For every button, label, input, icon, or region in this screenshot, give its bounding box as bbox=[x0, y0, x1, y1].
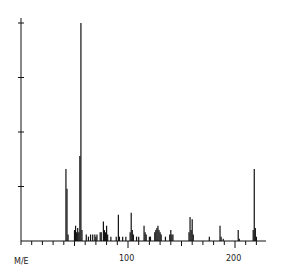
peaks bbox=[66, 23, 256, 241]
x-tick-label-200: 200 bbox=[226, 254, 241, 263]
y-axis bbox=[18, 18, 24, 241]
x-tick-label-100: 100 bbox=[119, 254, 134, 263]
x-axis bbox=[21, 241, 266, 248]
x-axis-label: M/E bbox=[14, 257, 29, 266]
mass-spectrum-chart: M/E 100 200 bbox=[0, 0, 281, 277]
